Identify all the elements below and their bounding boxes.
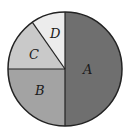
label-b: B [34, 83, 45, 98]
label-a: A [82, 62, 92, 77]
slice-a [65, 12, 122, 126]
pie-chart: A B C D [0, 0, 129, 136]
label-c: C [29, 47, 39, 62]
label-d: D [49, 26, 61, 41]
